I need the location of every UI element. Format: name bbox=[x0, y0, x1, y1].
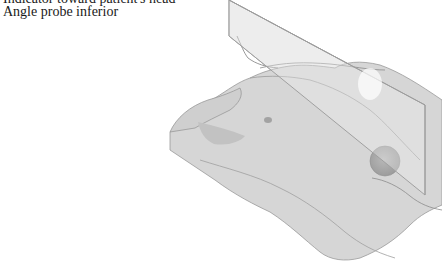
nipple-marker bbox=[264, 117, 272, 123]
torso-scan-plane-illustration bbox=[0, 0, 442, 269]
